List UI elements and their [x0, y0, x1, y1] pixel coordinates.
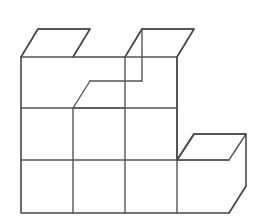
isometric-block-figure: [0, 0, 268, 219]
block-figure-scene: [0, 0, 268, 219]
